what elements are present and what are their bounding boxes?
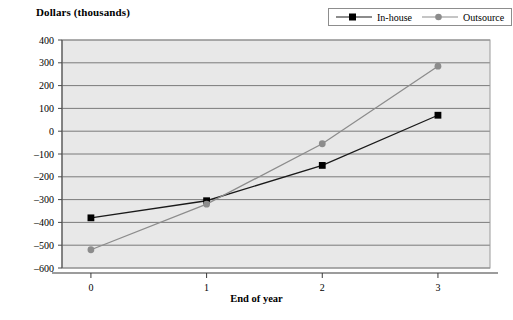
svg-text:0: 0 xyxy=(88,282,93,293)
svg-text:–500: –500 xyxy=(33,240,54,251)
svg-text:–200: –200 xyxy=(33,171,54,182)
svg-text:1: 1 xyxy=(204,282,209,293)
svg-text:–400: –400 xyxy=(33,217,54,228)
svg-text:400: 400 xyxy=(39,35,54,46)
svg-text:2: 2 xyxy=(320,282,325,293)
svg-text:–300: –300 xyxy=(33,194,54,205)
y-axis-ticks: 4003002001000–100–200–300–400–500–600 xyxy=(33,35,62,274)
svg-text:200: 200 xyxy=(39,80,54,91)
svg-text:100: 100 xyxy=(39,103,54,114)
svg-text:–100: –100 xyxy=(33,149,54,160)
x-axis-title: End of year xyxy=(0,293,513,304)
svg-text:3: 3 xyxy=(435,282,440,293)
chart-plot: 4003002001000–100–200–300–400–500–600 01… xyxy=(0,0,513,320)
x-axis-ticks: 0123 xyxy=(88,273,440,293)
svg-text:300: 300 xyxy=(39,57,54,68)
chart-figure: Dollars (thousands) In-house Outsource xyxy=(0,0,513,320)
svg-text:–600: –600 xyxy=(33,263,54,274)
svg-text:0: 0 xyxy=(49,126,54,137)
plot-area-wrapper: 4003002001000–100–200–300–400–500–600 01… xyxy=(0,0,513,320)
